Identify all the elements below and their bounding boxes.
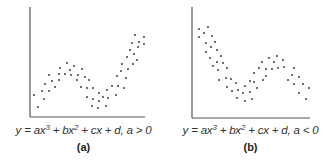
data-point — [244, 100, 246, 102]
data-point — [298, 92, 300, 94]
panel-label: (b) — [167, 141, 334, 153]
data-point — [106, 89, 108, 91]
data-point — [41, 90, 43, 92]
data-point — [217, 69, 219, 71]
data-point — [237, 89, 239, 91]
data-point — [133, 53, 135, 55]
data-point — [54, 86, 56, 88]
data-point — [218, 79, 220, 81]
data-point — [230, 78, 232, 80]
data-point — [253, 81, 255, 83]
data-point — [123, 87, 125, 89]
data-point — [86, 96, 88, 98]
data-point — [73, 65, 75, 67]
data-point — [268, 57, 270, 59]
data-point — [261, 61, 263, 63]
equation-caption: y = ax3 + bx2 + cx + d, a < 0 — [167, 124, 334, 136]
data-point — [48, 90, 50, 92]
data-point — [33, 94, 35, 96]
data-point — [298, 76, 300, 78]
data-point — [44, 83, 46, 85]
data-point — [302, 83, 304, 85]
data-point — [111, 85, 113, 87]
data-point — [235, 82, 237, 84]
data-point — [143, 43, 145, 45]
data-point — [143, 36, 145, 38]
data-point — [258, 67, 260, 69]
data-point — [293, 67, 295, 69]
data-point — [107, 97, 109, 99]
data-point — [236, 97, 238, 99]
data-point — [115, 94, 117, 96]
data-point — [102, 96, 104, 98]
data-point — [81, 68, 83, 70]
scatter-plot-a — [0, 0, 167, 125]
data-point — [127, 68, 129, 70]
data-point — [231, 90, 233, 92]
data-point — [251, 98, 253, 100]
data-point — [137, 46, 139, 48]
data-point — [48, 74, 50, 76]
data-point — [198, 36, 200, 38]
data-point — [86, 87, 88, 89]
data-point — [136, 59, 138, 61]
data-point — [242, 92, 244, 94]
data-point — [70, 74, 72, 76]
data-point — [222, 62, 224, 64]
panel-a: y = ax3 + bx2 + cx + d, a > 0 (a) — [0, 0, 167, 162]
data-point — [205, 51, 207, 53]
data-point — [226, 86, 228, 88]
data-point — [77, 74, 79, 76]
data-point — [105, 105, 107, 107]
data-point — [43, 98, 45, 100]
data-point — [287, 79, 289, 81]
data-point — [126, 56, 128, 58]
data-point — [283, 66, 285, 68]
data-point — [253, 72, 255, 74]
data-point — [220, 55, 222, 57]
data-point — [76, 79, 78, 81]
data-point — [98, 100, 100, 102]
data-point — [59, 67, 61, 69]
data-point — [305, 98, 307, 100]
data-point — [116, 75, 118, 77]
data-point — [132, 63, 134, 65]
panel-b: y = ax3 + bx2 + cx + d, a < 0 (b) — [167, 0, 334, 162]
data-point — [84, 76, 86, 78]
data-point — [198, 28, 200, 30]
data-point — [129, 49, 131, 51]
equation-caption: y = ax3 + bx2 + cx + d, a > 0 — [0, 124, 167, 136]
scatter-plot-b — [167, 0, 334, 125]
data-point — [271, 68, 273, 70]
data-point — [210, 46, 212, 48]
data-point — [207, 26, 209, 28]
data-point — [265, 75, 267, 77]
data-point — [58, 73, 60, 75]
data-point — [125, 77, 127, 79]
data-points — [33, 34, 145, 109]
data-point — [214, 41, 216, 43]
data-point — [212, 65, 214, 67]
data-point — [216, 61, 218, 63]
data-point — [92, 87, 94, 89]
data-point — [276, 55, 278, 57]
data-point — [293, 83, 295, 85]
data-point — [134, 34, 136, 36]
data-point — [203, 32, 205, 34]
data-point — [225, 77, 227, 79]
data-point — [66, 62, 68, 64]
data-point — [282, 59, 284, 61]
data-point — [249, 80, 251, 82]
data-point — [120, 70, 122, 72]
data-point — [262, 79, 264, 81]
data-point — [51, 80, 53, 82]
data-point — [121, 63, 123, 65]
data-point — [58, 79, 60, 81]
data-point — [308, 87, 310, 89]
data-point — [277, 67, 279, 69]
data-point — [249, 91, 251, 93]
data-point — [131, 42, 133, 44]
panel-label: (a) — [0, 141, 167, 153]
data-point — [226, 67, 228, 69]
data-point — [138, 41, 140, 43]
